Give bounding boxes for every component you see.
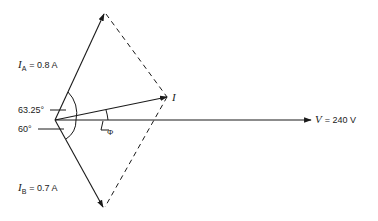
v-label: V= 240 V — [315, 113, 356, 125]
ib-phasor-arrow — [55, 120, 103, 207]
ib-label: IB= 0.7 A — [17, 181, 58, 195]
ia-phasor-arrow — [55, 14, 104, 120]
angle-label-phi: Φ — [107, 128, 113, 137]
angle-arc-phi — [106, 110, 108, 120]
ia-label: IA= 0.8 A — [17, 58, 58, 72]
i-label: I — [171, 91, 177, 103]
dashed-construction-line-bottom — [105, 97, 167, 207]
dashed-construction-line-top — [106, 14, 167, 97]
phasor-diagram: IA= 0.8 A IB= 0.7 A I V= 240 V 63.25° 60… — [0, 0, 378, 221]
angle-label-63: 63.25° — [18, 105, 45, 115]
i-resultant-arrow — [55, 97, 167, 120]
angle-label-60: 60° — [18, 124, 32, 134]
angle-arc-60 — [66, 120, 76, 139]
